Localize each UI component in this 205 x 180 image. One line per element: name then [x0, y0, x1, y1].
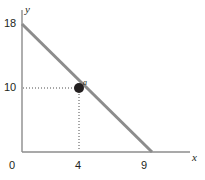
y-axis-tick-label-18: 18	[4, 18, 16, 29]
y-axis-label: y	[25, 4, 30, 15]
y-axis-tick-label-10: 10	[4, 82, 16, 93]
x-axis-label: x	[192, 152, 197, 163]
x-axis-tick-label-4: 4	[75, 160, 81, 171]
x-axis-tick-label-0: 0	[9, 160, 15, 171]
chart-plot-area	[0, 0, 205, 180]
x-axis-tick-label-9: 9	[141, 160, 147, 171]
chart-figure: 18 10 0 4 9 y x a	[0, 0, 205, 180]
data-point-a-label: a	[83, 79, 87, 87]
